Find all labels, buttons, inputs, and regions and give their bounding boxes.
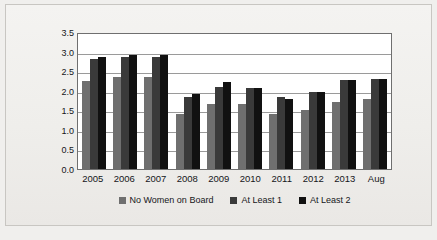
legend-item: At Least 1	[230, 195, 282, 205]
x-axis-tick-label: 2011	[266, 172, 298, 188]
bar	[207, 104, 215, 169]
bar	[332, 102, 340, 169]
bar	[309, 92, 317, 169]
bar	[223, 82, 231, 169]
x-axis-tick-label: 2007	[140, 172, 172, 188]
bar	[176, 114, 184, 169]
bar	[129, 55, 137, 169]
bar	[317, 92, 325, 169]
y-axis-tick-label: 2.5	[61, 67, 74, 77]
legend-item: No Women on Board	[119, 195, 214, 205]
bar-group	[266, 34, 297, 169]
bar	[379, 79, 387, 169]
x-axis-tick-label: 2012	[298, 172, 330, 188]
bar	[82, 81, 90, 169]
y-axis-tick-label: 1.5	[61, 106, 74, 116]
legend-swatch-icon	[230, 197, 237, 204]
y-axis-tick-label: 1.0	[61, 126, 74, 136]
legend-item: At Least 2	[299, 195, 351, 205]
y-axis-tick-label: 3.0	[61, 48, 74, 58]
x-axis-tick-label: 2010	[235, 172, 267, 188]
x-axis-tick-label: Aug	[361, 172, 393, 188]
chart-legend: No Women on BoardAt Least 1At Least 2	[77, 192, 392, 208]
y-axis-tick-label: 0.0	[61, 165, 74, 175]
bar	[192, 94, 200, 169]
bar	[152, 57, 160, 169]
x-axis-tick-label: 2008	[172, 172, 204, 188]
legend-swatch-icon	[119, 197, 126, 204]
x-axis-tick-labels: 200520062007200820092010201120122013Aug	[77, 172, 392, 188]
bar	[371, 79, 379, 169]
bar-group	[234, 34, 265, 169]
bar	[254, 88, 262, 169]
bar	[340, 80, 348, 169]
bar	[238, 104, 246, 169]
y-axis-tick-label: 3.5	[61, 28, 74, 38]
bar-group	[297, 34, 328, 169]
chart-figure: P/SY, Sector Control M Cap Weighted 3.53…	[0, 0, 437, 240]
bar	[277, 97, 285, 169]
bar	[144, 77, 152, 169]
legend-label: At Least 1	[241, 195, 282, 205]
bar	[269, 114, 277, 169]
bar-group	[78, 34, 109, 169]
legend-label: At Least 2	[310, 195, 351, 205]
legend-swatch-icon	[299, 197, 306, 204]
y-axis-tick-label: 0.5	[61, 145, 74, 155]
bar-group	[172, 34, 203, 169]
bar	[113, 77, 121, 169]
bar	[98, 57, 106, 169]
bar	[285, 99, 293, 169]
y-axis-tick-label: 2.0	[61, 87, 74, 97]
x-axis-tick-label: 2009	[203, 172, 235, 188]
bar-groups	[78, 34, 391, 169]
bar	[160, 55, 168, 169]
bar-group	[328, 34, 359, 169]
bar	[215, 87, 223, 169]
bar	[90, 59, 98, 169]
x-axis-tick-label: 2013	[329, 172, 361, 188]
bar-group	[141, 34, 172, 169]
bar	[348, 80, 356, 169]
bar-group	[203, 34, 234, 169]
y-axis-tick-labels: 3.53.02.52.01.51.00.50.0	[48, 33, 74, 170]
legend-label: No Women on Board	[130, 195, 214, 205]
bar	[363, 99, 371, 169]
bar	[246, 88, 254, 169]
bar	[301, 110, 309, 169]
bar	[184, 97, 192, 169]
x-axis-tick-label: 2005	[77, 172, 109, 188]
bar-group	[360, 34, 391, 169]
x-axis-tick-label: 2006	[109, 172, 141, 188]
plot-area	[77, 33, 392, 170]
bar-group	[109, 34, 140, 169]
bar	[121, 57, 129, 169]
